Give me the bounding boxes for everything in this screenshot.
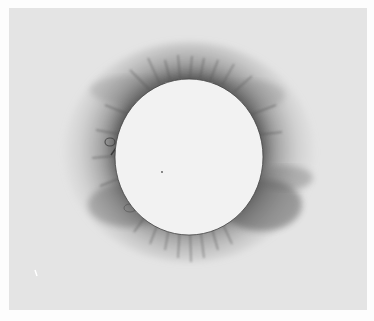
eclipse-disk <box>115 79 263 235</box>
eclipse-illustration <box>0 0 374 321</box>
disk-speck <box>161 171 163 173</box>
stray-mark <box>35 270 37 276</box>
